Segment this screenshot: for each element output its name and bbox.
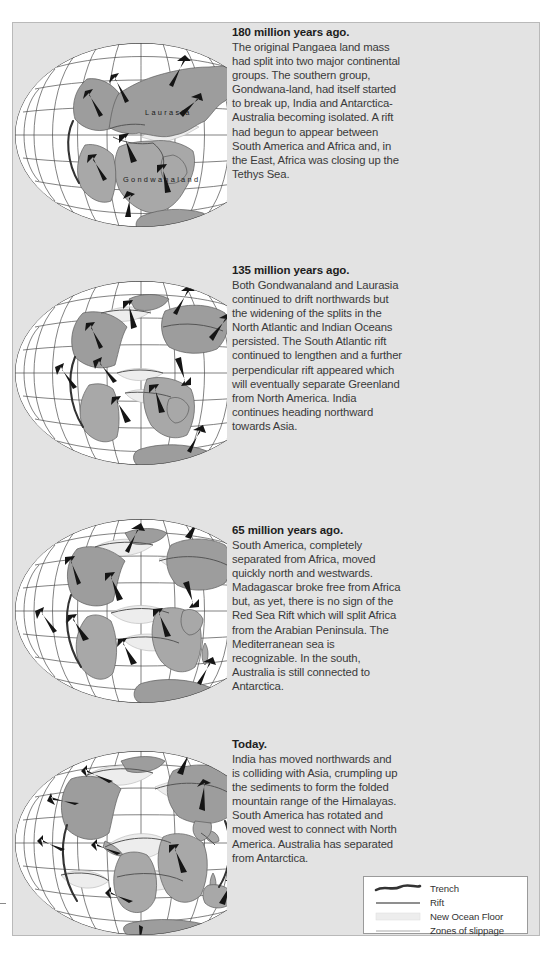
map-today xyxy=(13,725,227,936)
caption-heading-135: 135 million years ago. xyxy=(232,263,402,277)
caption-heading-180: 180 million years ago. xyxy=(232,25,402,39)
rift-symbol xyxy=(374,896,422,909)
figure-page: Laurasia Gondwanaland xyxy=(0,0,552,954)
map-label-gondwanaland: Gondwanaland xyxy=(123,175,200,184)
caption-body-135: Both Gondwanaland and Laurasia continued… xyxy=(232,278,402,433)
caption-body-65: South America, completely separated from… xyxy=(232,538,402,693)
registration-tick xyxy=(0,903,6,904)
globe-svg-135 xyxy=(13,255,227,493)
legend-row-new-ocean-floor: New Ocean Floor xyxy=(364,910,527,923)
legend-box: Trench Rift New Ocean Floor Zones of sli… xyxy=(363,876,528,934)
map-65-million xyxy=(13,493,227,731)
map-135-million xyxy=(13,255,227,493)
legend-label-rift: Rift xyxy=(430,896,444,909)
legend-row-trench: Trench xyxy=(364,882,527,895)
legend-label-new-ocean-floor: New Ocean Floor xyxy=(430,910,503,923)
figure-plate: Laurasia Gondwanaland xyxy=(12,22,540,936)
caption-heading-today: Today. xyxy=(232,737,402,751)
map-180-million: Laurasia Gondwanaland xyxy=(13,22,227,255)
globe-svg-65 xyxy=(13,493,227,731)
caption-heading-65: 65 million years ago. xyxy=(232,523,402,537)
legend-label-zones-of-slippage: Zones of slippage xyxy=(430,924,504,937)
legend-row-zones-of-slippage: Zones of slippage xyxy=(364,924,527,937)
trench-symbol xyxy=(374,882,422,895)
caption-today: Today. India has moved northwards and is… xyxy=(232,737,402,865)
map-label-laurasia: Laurasia xyxy=(145,108,192,117)
caption-body-today: India has moved northwards and is collid… xyxy=(232,752,402,865)
caption-135-million: 135 million years ago. Both Gondwanaland… xyxy=(232,263,402,433)
caption-180-million: 180 million years ago. The original Pang… xyxy=(232,25,402,181)
globe-svg-today xyxy=(13,725,227,936)
zones-of-slippage-symbol xyxy=(374,924,422,937)
new-ocean-floor-symbol xyxy=(374,910,422,923)
legend-row-rift: Rift xyxy=(364,896,527,909)
caption-body-180: The original Pangaea land mass had split… xyxy=(232,40,402,181)
caption-65-million: 65 million years ago. South America, com… xyxy=(232,523,402,693)
globe-svg-180: Laurasia Gondwanaland xyxy=(13,22,227,255)
legend-label-trench: Trench xyxy=(430,882,459,895)
